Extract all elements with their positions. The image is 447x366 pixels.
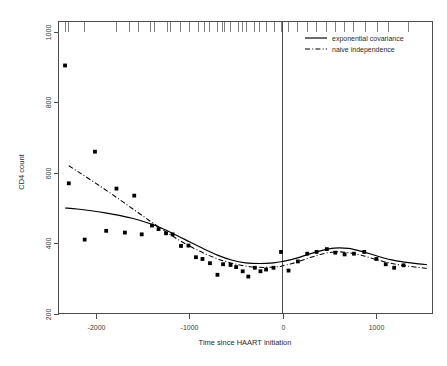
data-point: [115, 187, 119, 191]
x-tick-label: 0: [282, 324, 286, 331]
y-tick-label: 400: [45, 238, 52, 250]
legend-label: naive independence: [332, 46, 395, 54]
data-point: [171, 232, 175, 236]
data-point: [179, 244, 183, 248]
data-point: [123, 231, 127, 235]
data-point: [325, 247, 329, 251]
y-tick-label: 1000: [45, 25, 52, 41]
data-point: [333, 251, 337, 255]
data-point: [246, 275, 250, 279]
x-tick-label: -2000: [88, 324, 106, 331]
data-point: [272, 266, 276, 270]
x-axis-title: Time since HAART initiation: [199, 338, 292, 347]
y-tick-label: 600: [45, 168, 52, 180]
data-point: [216, 273, 220, 277]
data-point: [352, 252, 356, 256]
x-tick-label: -1000: [181, 324, 199, 331]
figure-container: -2000-100001000 2004006008001000 Time si…: [0, 0, 447, 366]
y-tick-label: 200: [45, 309, 52, 321]
data-point: [194, 255, 198, 259]
y-axis-title: CD4 count: [17, 153, 26, 189]
data-point: [67, 181, 71, 185]
y-tick-label: 800: [45, 97, 52, 109]
data-point: [157, 227, 161, 231]
data-point: [287, 269, 291, 273]
data-point: [305, 252, 309, 256]
rug-plot-group: [65, 22, 408, 32]
data-point: [63, 64, 67, 68]
data-point: [150, 224, 154, 228]
data-point: [315, 250, 319, 254]
data-point: [234, 265, 238, 269]
data-point: [132, 194, 136, 198]
data-point: [241, 269, 245, 273]
y-axis-tick-labels: 2004006008001000: [45, 25, 52, 321]
data-point: [164, 231, 168, 235]
data-point: [83, 238, 87, 242]
cd4-count-scatter-plot: -2000-100001000 2004006008001000 Time si…: [0, 0, 447, 366]
data-point: [229, 263, 233, 267]
plot-panel-border: [59, 22, 433, 314]
y-axis-tick-group: [54, 33, 59, 315]
series-line-exponential-covariance: [65, 208, 427, 265]
data-point: [264, 268, 268, 272]
data-point: [279, 250, 283, 254]
data-point: [140, 232, 144, 236]
data-point: [104, 229, 108, 233]
data-point: [343, 252, 347, 256]
data-point: [375, 257, 379, 261]
data-point: [402, 263, 406, 267]
data-point: [384, 262, 388, 266]
data-point: [208, 261, 212, 265]
data-point: [362, 250, 366, 254]
data-point: [253, 266, 257, 270]
data-point: [296, 260, 300, 264]
data-point: [259, 269, 263, 273]
data-point-group: [63, 64, 405, 279]
data-point: [93, 150, 97, 154]
x-tick-label: 1000: [369, 324, 385, 331]
legend: exponential covariancenaive independence: [305, 35, 404, 54]
legend-label: exponential covariance: [332, 35, 404, 43]
x-axis-tick-labels: -2000-100001000: [88, 324, 385, 331]
data-point: [201, 257, 205, 261]
data-point: [221, 262, 225, 266]
data-point: [187, 244, 191, 248]
data-point: [392, 266, 396, 270]
x-axis-tick-group: [97, 314, 377, 319]
series-line-naive-independence: [69, 166, 427, 269]
fitted-curve-group: [65, 166, 427, 269]
